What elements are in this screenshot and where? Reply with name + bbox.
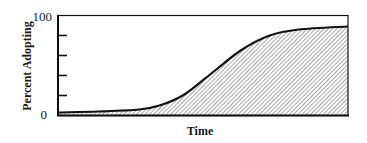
y-tick-label-0: 0 [41, 107, 48, 122]
chart: 100 0 Time Percent Adopting [0, 0, 367, 143]
x-axis-label: Time [187, 124, 214, 138]
adoption-area [58, 27, 348, 116]
y-axis-label: Percent Adopting [20, 21, 34, 110]
y-tick-label-100: 100 [33, 9, 53, 24]
y-ticks [58, 36, 67, 96]
